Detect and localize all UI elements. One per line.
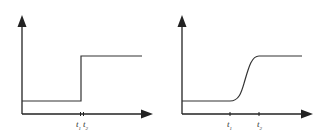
left-diagram bbox=[18, 15, 154, 119]
y-axis-arrow-icon bbox=[178, 15, 187, 27]
step-curve bbox=[22, 56, 142, 101]
label-t1-left: t1 bbox=[76, 120, 81, 131]
sigmoid-curve bbox=[182, 56, 302, 101]
label-t1-right: t1 bbox=[227, 120, 232, 131]
label-t2-left: t2 bbox=[83, 120, 88, 131]
right-diagram bbox=[178, 15, 314, 119]
diagram-canvas bbox=[0, 0, 322, 139]
y-axis-arrow-icon bbox=[18, 15, 27, 27]
label-t2-right: t2 bbox=[257, 120, 262, 131]
x-axis-arrow-icon bbox=[301, 110, 313, 119]
x-axis-arrow-icon bbox=[141, 110, 153, 119]
